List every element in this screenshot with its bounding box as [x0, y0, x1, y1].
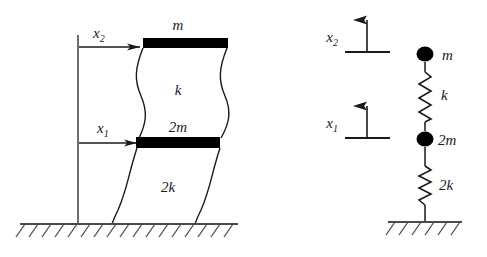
label-x1-left: x1	[96, 120, 109, 139]
label-lower-spring-right: 2k	[439, 177, 454, 193]
label-lower-stiffness-left: 2k	[161, 179, 176, 195]
label-top-mass-left: m	[173, 17, 184, 33]
shear-frame-diagram: x2 x1 m 2m k 2k	[16, 17, 238, 237]
right-column-upper	[220, 48, 229, 138]
mass-node-2m	[417, 132, 434, 147]
spring-k	[419, 72, 431, 122]
ground-hatching-right	[386, 222, 460, 235]
mass-node-m	[417, 47, 434, 62]
spring-2k	[419, 166, 431, 205]
label-x1-right: x1	[325, 115, 338, 134]
figure-canvas: x2 x1 m 2m k 2k	[0, 0, 487, 257]
label-upper-spring-right: k	[441, 87, 448, 103]
diagram-svg: x2 x1 m 2m k 2k	[0, 0, 487, 257]
label-lower-mass-right: 2m	[438, 132, 457, 148]
right-column-lower	[195, 148, 220, 224]
label-x2-left: x2	[92, 25, 105, 44]
left-column-upper	[136, 48, 145, 138]
lumped-mass-spring-model: x2 x1 m 2m k 2k	[325, 20, 462, 235]
lower-floor-slab	[136, 137, 220, 148]
label-top-mass-right: m	[442, 47, 453, 63]
top-floor-slab	[143, 38, 228, 48]
left-column-lower	[112, 148, 137, 224]
label-upper-stiffness-left: k	[175, 82, 182, 98]
label-lower-mass-left: 2m	[169, 119, 188, 135]
label-x2-right: x2	[325, 29, 338, 48]
ground-hatching-left	[16, 224, 233, 237]
